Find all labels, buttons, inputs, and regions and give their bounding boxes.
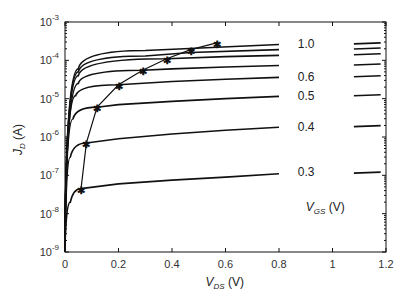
iv-curve bbox=[65, 96, 279, 252]
iv-curve bbox=[65, 66, 279, 252]
curve-extension-segment bbox=[354, 64, 381, 65]
vgs-label: 0.6 bbox=[298, 70, 315, 84]
y-tick-label: 10-9 bbox=[40, 243, 60, 258]
curve-extension-segment bbox=[354, 48, 381, 49]
x-tick-label: 0.4 bbox=[164, 258, 179, 270]
x-axis-label: VDS (V) bbox=[206, 275, 244, 291]
vgs-label: 0.5 bbox=[298, 89, 315, 103]
iv-curve bbox=[65, 44, 279, 252]
curve-extension-segment bbox=[354, 172, 381, 173]
asterisk-marker: ✱ bbox=[93, 103, 102, 114]
vgs-label: 0.3 bbox=[298, 165, 315, 179]
asterisk-marker: ✱ bbox=[139, 66, 148, 77]
curve-extension-segment bbox=[354, 54, 381, 55]
chart: 00.20.40.60.811.210-910-810-710-610-510-… bbox=[0, 0, 412, 300]
asterisk-marker: ✱ bbox=[163, 55, 172, 66]
curve-extension-segment bbox=[354, 95, 381, 96]
asterisk-marker: ✱ bbox=[82, 139, 91, 150]
x-tick-label: 0 bbox=[62, 258, 68, 270]
asterisk-marker: ✱ bbox=[77, 185, 86, 196]
x-tick-label: 0.2 bbox=[111, 258, 126, 270]
asterisk-marker: ✱ bbox=[187, 46, 196, 57]
vgs-label: 0.4 bbox=[298, 120, 315, 134]
x-tick-label: 1 bbox=[329, 258, 335, 270]
y-tick-label: 10-4 bbox=[40, 51, 60, 66]
vgs-title: VGS (V) bbox=[306, 200, 345, 216]
y-tick-label: 10-5 bbox=[40, 90, 60, 105]
y-tick-label: 10-7 bbox=[40, 166, 60, 181]
x-tick-label: 1.2 bbox=[378, 258, 393, 270]
y-tick-label: 10-8 bbox=[40, 205, 60, 220]
y-tick-label: 10-6 bbox=[40, 128, 60, 143]
x-tick-label: 0.6 bbox=[218, 258, 233, 270]
saturation-locus bbox=[81, 43, 217, 189]
iv-curve bbox=[65, 127, 279, 252]
y-axis-label: JD (A) bbox=[11, 124, 27, 156]
x-tick-label: 0.8 bbox=[271, 258, 286, 270]
curve-extension-segment bbox=[354, 43, 381, 44]
y-tick-label: 10-3 bbox=[40, 13, 60, 28]
iv-curve bbox=[65, 50, 279, 252]
curve-extension-segment bbox=[354, 76, 381, 77]
iv-curve bbox=[65, 174, 279, 252]
iv-curve bbox=[65, 55, 279, 252]
curve-extension-segment bbox=[354, 126, 381, 127]
vgs-label: 1.0 bbox=[298, 37, 315, 51]
asterisk-marker: ✱ bbox=[115, 81, 124, 92]
asterisk-marker: ✱ bbox=[213, 39, 222, 50]
